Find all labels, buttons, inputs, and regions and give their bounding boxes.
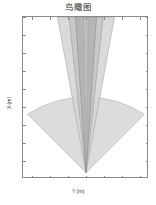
y-tick-mark xyxy=(23,107,26,108)
x-tick-mark xyxy=(86,176,87,178)
x-tick-mark-top xyxy=(140,17,141,20)
x-tick-mark xyxy=(50,176,51,178)
y-tick-mark xyxy=(23,17,26,18)
x-tick-mark-top xyxy=(122,17,123,20)
y-tick-mark xyxy=(23,125,26,126)
y-tick-mark-right xyxy=(146,107,148,108)
x-tick-mark-top xyxy=(68,17,69,20)
birds-eye-view-figure: 鸟瞰图 xyxy=(0,0,156,205)
y-tick-mark-right xyxy=(146,35,148,36)
x-tick-mark xyxy=(68,176,69,178)
x-tick-mark xyxy=(32,176,33,178)
x-tick-mark-top xyxy=(104,17,105,20)
x-tick-mark-top xyxy=(50,17,51,20)
x-axis-label: Y (m) xyxy=(0,188,156,194)
tick-marks xyxy=(23,17,148,178)
chart-title: 鸟瞰图 xyxy=(0,2,156,13)
y-tick-mark-right xyxy=(146,89,148,90)
y-tick-mark-right xyxy=(146,53,148,54)
y-tick-mark-right xyxy=(146,71,148,72)
y-axis-label: X (m) xyxy=(6,96,12,108)
x-tick-mark xyxy=(140,176,141,178)
y-tick-mark xyxy=(23,35,26,36)
x-tick-mark xyxy=(122,176,123,178)
y-tick-mark xyxy=(23,143,26,144)
y-tick-mark xyxy=(23,71,26,72)
y-tick-mark-right xyxy=(146,125,148,126)
y-tick-mark xyxy=(23,89,26,90)
y-tick-mark-right xyxy=(146,161,148,162)
plot-area: 90 80 70 60 50 40 30 20 10 0 30 20 10 0 … xyxy=(22,16,148,178)
y-tick-mark xyxy=(23,161,26,162)
x-tick-mark-top xyxy=(86,17,87,20)
y-tick-mark-right xyxy=(146,17,148,18)
y-tick-mark-right xyxy=(146,143,148,144)
x-tick-mark-top xyxy=(32,17,33,20)
x-tick-mark xyxy=(104,176,105,178)
y-tick-mark xyxy=(23,53,26,54)
